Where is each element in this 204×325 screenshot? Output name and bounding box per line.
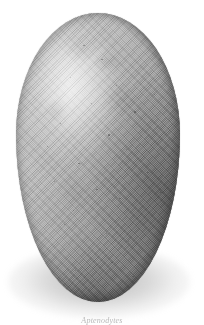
egg-shell — [16, 13, 180, 302]
plate-caption: Aptenodytes — [0, 316, 204, 325]
egg-figure — [16, 13, 180, 302]
illustration-plate: Aptenodytes — [0, 0, 204, 325]
